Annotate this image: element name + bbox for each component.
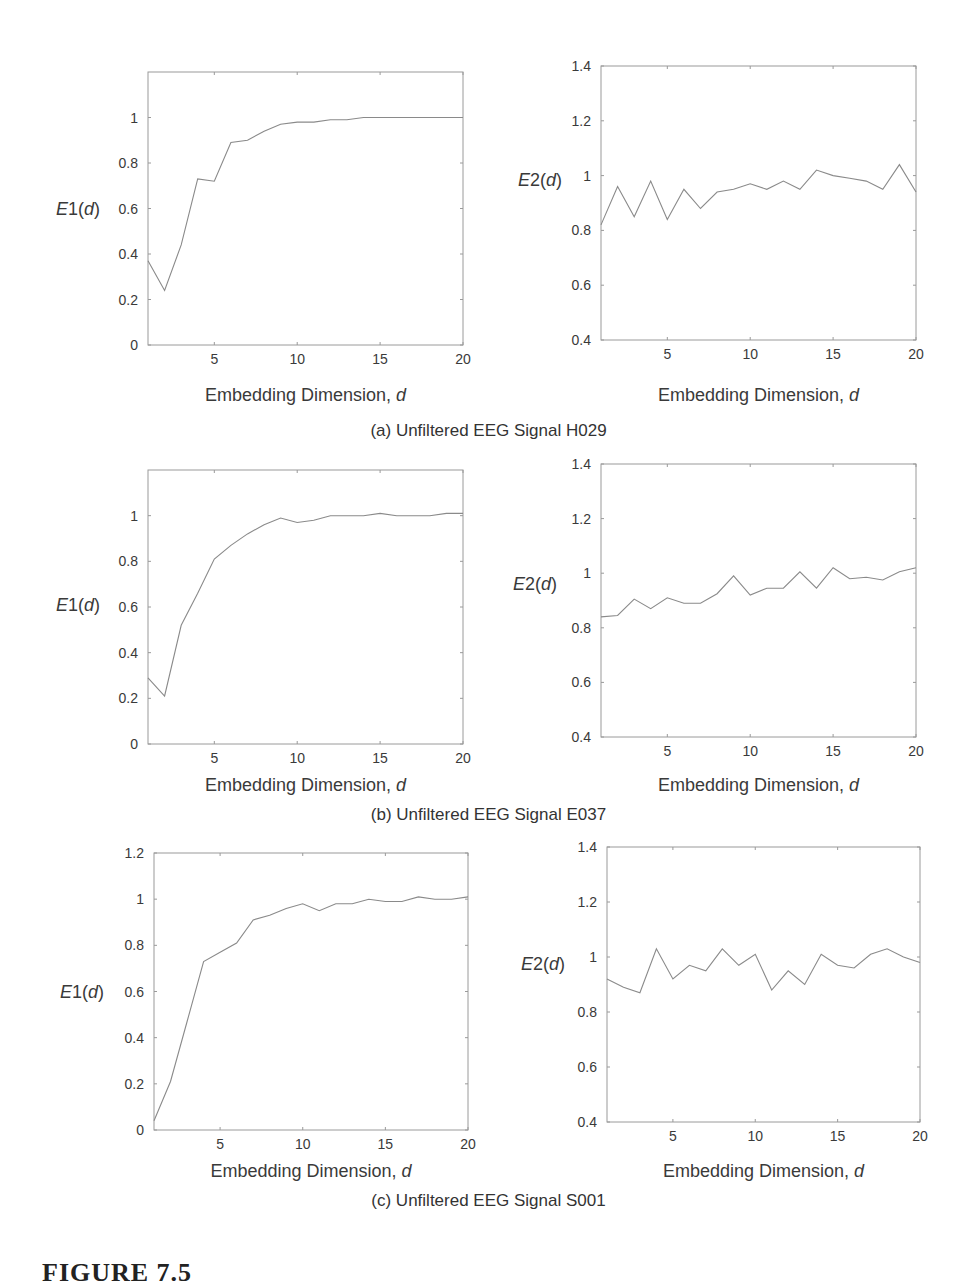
y-axis-label: E2(d) [518, 170, 562, 190]
caption-b: (b) Unfiltered EEG Signal E037 [0, 805, 977, 825]
y-tick-label: 1 [130, 110, 138, 126]
x-tick-label: 10 [289, 750, 305, 766]
x-tick-label: 20 [912, 1128, 928, 1144]
y-tick-label: 1 [589, 949, 597, 965]
y-tick-label: 1.4 [578, 839, 598, 855]
chart-b-E1: 510152000.20.40.60.81E1(d)Embedding Dime… [56, 470, 471, 795]
x-tick-label: 5 [216, 1136, 224, 1152]
x-tick-label: 15 [378, 1136, 394, 1152]
x-tick-label: 15 [825, 346, 841, 362]
y-tick-label: 0.6 [119, 201, 139, 217]
x-tick-label: 20 [460, 1136, 476, 1152]
y-axis-label: E2(d) [521, 954, 565, 974]
y-tick-label: 0.4 [578, 1114, 598, 1130]
y-axis-label: E1(d) [60, 982, 104, 1002]
data-line [154, 897, 468, 1121]
y-tick-label: 1.2 [125, 845, 145, 861]
x-axis-label: Embedding Dimension, d [663, 1161, 865, 1181]
x-tick-label: 15 [372, 351, 388, 367]
y-tick-label: 1.2 [578, 894, 598, 910]
data-line [607, 949, 920, 993]
x-axis-label: Embedding Dimension, d [658, 775, 860, 795]
y-tick-label: 0.4 [125, 1030, 145, 1046]
y-tick-label: 0.4 [119, 246, 139, 262]
x-axis-label: Embedding Dimension, d [210, 1161, 412, 1181]
x-tick-label: 10 [742, 743, 758, 759]
x-tick-label: 20 [908, 743, 924, 759]
y-tick-label: 1.2 [572, 511, 592, 527]
caption-a: (a) Unfiltered EEG Signal H029 [0, 421, 977, 441]
x-tick-label: 5 [663, 346, 671, 362]
y-axis-label: E2(d) [513, 574, 557, 594]
data-line [601, 165, 916, 225]
x-axis-label: Embedding Dimension, d [205, 385, 407, 405]
chart-c-E1: 510152000.20.40.60.811.2E1(d)Embedding D… [60, 845, 476, 1181]
chart-b-E2: 51015200.40.60.811.21.4E2(d)Embedding Di… [513, 456, 924, 795]
y-tick-label: 0.2 [119, 292, 139, 308]
y-axis-label: E1(d) [56, 199, 100, 219]
y-tick-label: 1 [136, 891, 144, 907]
y-tick-label: 0 [130, 337, 138, 353]
y-tick-label: 0.4 [572, 332, 592, 348]
y-tick-label: 0.8 [572, 222, 592, 238]
x-tick-label: 20 [908, 346, 924, 362]
y-tick-label: 0.6 [119, 599, 139, 615]
y-axis-label: E1(d) [56, 595, 100, 615]
data-line [148, 513, 463, 696]
y-tick-label: 0 [130, 736, 138, 752]
y-tick-label: 0.8 [578, 1004, 598, 1020]
y-tick-label: 1.2 [572, 113, 592, 129]
y-tick-label: 0.2 [119, 690, 139, 706]
y-tick-label: 0.4 [119, 645, 139, 661]
x-tick-label: 5 [210, 750, 218, 766]
chart-a-E1: 510152000.20.40.60.81E1(d)Embedding Dime… [56, 72, 471, 405]
x-tick-label: 20 [455, 351, 471, 367]
plot-frame [148, 72, 463, 345]
y-tick-label: 1.4 [572, 58, 592, 74]
y-tick-label: 0.8 [125, 937, 145, 953]
y-tick-label: 0.6 [578, 1059, 598, 1075]
data-line [601, 568, 916, 617]
chart-c-E2: 51015200.40.60.811.21.4E2(d)Embedding Di… [521, 839, 928, 1181]
y-tick-label: 1 [583, 168, 591, 184]
y-tick-label: 0 [136, 1122, 144, 1138]
plot-frame [154, 853, 468, 1130]
y-tick-label: 0.8 [572, 620, 592, 636]
figure-title: FIGURE 7.5 [42, 1258, 192, 1285]
x-tick-label: 10 [747, 1128, 763, 1144]
x-tick-label: 15 [372, 750, 388, 766]
x-tick-label: 15 [830, 1128, 846, 1144]
x-tick-label: 10 [295, 1136, 311, 1152]
y-tick-label: 0.6 [572, 277, 592, 293]
x-tick-label: 10 [289, 351, 305, 367]
caption-c: (c) Unfiltered EEG Signal S001 [0, 1191, 977, 1211]
plot-frame [148, 470, 463, 744]
plot-frame [601, 66, 916, 340]
y-tick-label: 0.6 [125, 984, 145, 1000]
y-tick-label: 0.4 [572, 729, 592, 745]
y-tick-label: 1.4 [572, 456, 592, 472]
y-tick-label: 0.6 [572, 674, 592, 690]
y-tick-label: 1 [130, 508, 138, 524]
x-tick-label: 5 [663, 743, 671, 759]
y-tick-label: 0.8 [119, 553, 139, 569]
x-axis-label: Embedding Dimension, d [205, 775, 407, 795]
y-tick-label: 0.2 [125, 1076, 145, 1092]
x-tick-label: 20 [455, 750, 471, 766]
y-tick-label: 1 [583, 565, 591, 581]
x-tick-label: 5 [210, 351, 218, 367]
x-tick-label: 10 [742, 346, 758, 362]
x-axis-label: Embedding Dimension, d [658, 385, 860, 405]
chart-a-E2: 51015200.40.60.811.21.4E2(d)Embedding Di… [518, 58, 924, 405]
plot-frame [607, 847, 920, 1122]
data-line [148, 118, 463, 291]
x-tick-label: 5 [669, 1128, 677, 1144]
x-tick-label: 15 [825, 743, 841, 759]
y-tick-label: 0.8 [119, 155, 139, 171]
plot-frame [601, 464, 916, 737]
